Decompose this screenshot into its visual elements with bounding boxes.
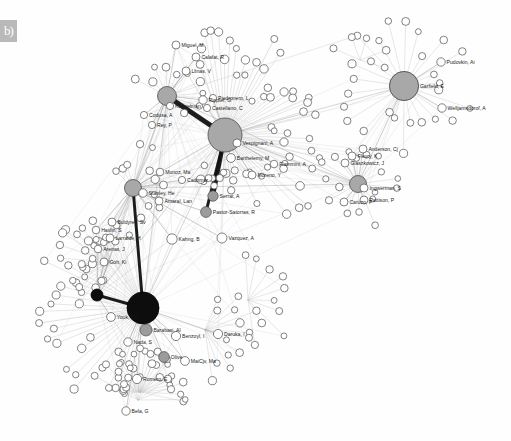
node-label: Moreno, Y [257,172,281,178]
node-label: Glaszkowicz, J [350,160,384,166]
node-label: Vazquez, A [228,235,254,241]
node-label: Rey, P [157,122,173,128]
node-label: Piedronero, L [218,95,249,101]
node-label: Larralde, H [115,235,141,241]
node-label: Buldyrev, Sv [117,219,146,225]
node-label: Arenas, J [103,246,125,252]
node-label: Anderson, Cj [368,146,397,152]
node-label: Flammini, A [279,161,306,167]
node-label: Kahng, B [179,236,201,242]
node-layer[interactable] [36,17,473,415]
node-label: Fleury, K [357,153,378,159]
node-label: Munoz, Ma [165,169,190,175]
node-label: Serrat, A [220,193,240,199]
node-label: Pudovkin, Ai [447,59,475,65]
node-label: Kappelman [175,103,201,109]
node-label: Cadomar [187,177,208,183]
node-label: Youk, Tw [117,314,138,320]
node-label: Romero, E [143,376,168,382]
node-label: Daruka, I [224,331,245,337]
node-label: Pastor-Satorras, R [213,209,255,215]
node-label: Benzoyl, I [182,333,204,339]
node-label: Goh, Ki [109,259,126,265]
node-label: Garfield, E [420,83,445,89]
node-label: Codusa, A [149,112,173,118]
node-label: Castellano, C [212,105,243,111]
node-label: Calafat, R [201,54,224,60]
node-label: Stanley, He [149,190,175,196]
network-graph-canvas[interactable]: Miguel, MCalafat, RLlinas, VKappelmanCod… [0,0,511,441]
node-label: Olive [171,354,183,360]
node-label: Barabasi, Al [153,327,180,333]
node-label: Welljamsdorof, A [448,105,487,111]
node-label: Vespignani, A [242,140,273,146]
node-label: Amaral, Lan [164,198,192,204]
node-label: MaiCjv, Ma [191,358,216,364]
node-label: Havlin, S [101,227,122,233]
node-label: Miguel, M [181,42,203,48]
node-label: Ingwerman, S [369,185,401,191]
node-label: Barthelemy, M [237,155,269,161]
node-label: Llinas, V [191,68,211,74]
node-label: Bela, G [132,408,149,414]
node-label: Nada, S [134,339,153,345]
node-label: Caruzo, P [349,199,372,205]
node-label: Pattison, P [369,197,394,203]
network-figure: b) Miguel, MCalafat, RLlinas, VKappelman… [0,0,511,441]
